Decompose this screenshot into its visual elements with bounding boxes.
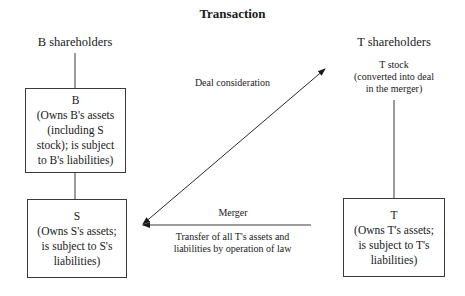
b-entity-desc: (Owns B's assets [37, 108, 114, 123]
diagram-title: Transaction [0, 6, 465, 22]
merger-sublabel: Transfer of all T's assets and liabiliti… [160, 231, 305, 255]
b-entity-desc: (including S [47, 123, 104, 138]
s-entity-desc: (Owns S's assets; [37, 224, 116, 239]
s-entity-box: S (Owns S's assets; is subject to S's li… [27, 199, 127, 278]
b-entity-desc: stock); is subject [37, 138, 114, 153]
s-entity-name: S [74, 209, 80, 224]
b-entity-box: B (Owns B's assets (including S stock); … [25, 88, 126, 173]
t-entity-desc: liabilities) [371, 253, 418, 268]
deal-consideration-arrow [143, 69, 325, 224]
b-entity-desc: to B's liabilities) [38, 153, 114, 168]
merger-label: Merger [200, 207, 266, 219]
s-entity-desc: is subject to S's [42, 239, 113, 254]
t-entity-desc: (Owns T's assets; [354, 223, 434, 238]
t-stock-note-line: (converted into deal [338, 71, 450, 83]
t-stock-note-line: T stock [338, 59, 450, 71]
b-entity-name: B [72, 93, 80, 108]
merger-sublabel-line: liabilities by operation of law [160, 243, 305, 255]
s-entity-desc: liabilities) [54, 254, 101, 269]
t-entity-name: T [390, 208, 397, 223]
deal-consideration-label: Deal consideration [180, 77, 285, 89]
b-shareholders-label: B shareholders [20, 35, 130, 50]
t-stock-note: T stock (converted into deal in the merg… [338, 59, 450, 95]
t-stock-note-line: in the merger) [338, 83, 450, 95]
t-entity-box: T (Owns T's assets; is subject to T's li… [343, 198, 445, 277]
t-shareholders-label: T shareholders [338, 35, 450, 50]
merger-sublabel-line: Transfer of all T's assets and [160, 231, 305, 243]
t-entity-desc: is subject to T's [358, 238, 429, 253]
